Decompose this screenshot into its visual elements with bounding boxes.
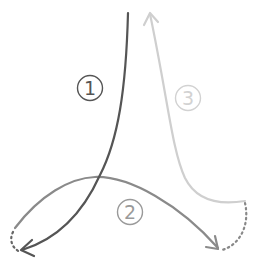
label-2: 2	[118, 200, 143, 225]
label-1: 1	[78, 76, 103, 101]
path-3	[144, 13, 245, 202]
label-3-text: 3	[182, 87, 194, 109]
label-3: 3	[176, 86, 201, 111]
connector-1-to-2-dotted	[11, 232, 20, 252]
cycle-diagram: 1 2 3	[0, 0, 253, 265]
label-2-text: 2	[124, 201, 136, 223]
path-1-curve	[22, 13, 128, 250]
path-1	[21, 13, 128, 256]
path-2	[15, 177, 218, 249]
label-1-text: 1	[84, 77, 96, 99]
path-2-curve	[15, 177, 218, 248]
connector-2-to-3-dotted	[222, 203, 246, 250]
path-3-curve	[150, 14, 245, 202]
